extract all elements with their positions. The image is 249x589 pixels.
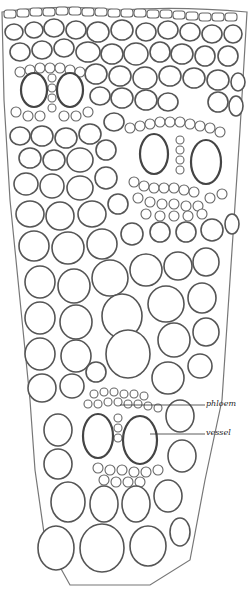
vascular-bundle-3 — [83, 388, 163, 487]
vessel-element — [123, 416, 157, 464]
vascular-bundle-2 — [125, 117, 227, 221]
vessel-label: vessel — [206, 428, 231, 437]
cortex-cells-mid — [10, 113, 239, 264]
phloem-label: phloem — [206, 399, 236, 408]
pith-cells — [25, 248, 219, 402]
vessel-element — [21, 73, 47, 107]
cell-drawing — [0, 0, 249, 589]
vessel-element — [140, 134, 168, 174]
vessel-element — [83, 414, 113, 458]
vascular-bundle-1 — [11, 63, 93, 121]
vessel-element — [191, 140, 221, 184]
vessel-element — [57, 73, 83, 107]
